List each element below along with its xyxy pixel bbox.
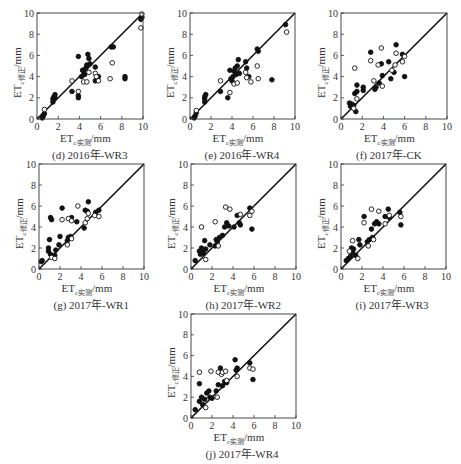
filled-data-point <box>193 258 198 263</box>
open-data-point <box>87 70 92 75</box>
open-data-point <box>213 219 218 224</box>
x-axis-label: ETc实测/mm <box>214 431 265 446</box>
open-data-point <box>351 106 356 111</box>
y-tick-label: 2 <box>333 92 338 103</box>
filled-data-point <box>202 397 207 402</box>
open-data-point <box>284 30 289 35</box>
panel-caption: (j) 2017年-WR4 <box>206 445 279 461</box>
open-data-point <box>85 80 90 85</box>
open-data-point <box>218 79 223 84</box>
y-tick-label: 2 <box>183 392 188 403</box>
y-axis-label: ETc修正/mm <box>165 198 180 249</box>
open-data-point <box>86 211 91 216</box>
filled-data-point <box>358 243 363 248</box>
open-data-point <box>399 214 404 219</box>
y-tick-label: 4 <box>333 71 338 82</box>
open-data-point <box>76 89 81 94</box>
open-data-point <box>110 61 115 66</box>
x-tick-label: 6 <box>402 271 407 282</box>
open-data-point <box>347 249 352 254</box>
x-tick-label: 2 <box>56 121 61 132</box>
panel-caption: (i) 2017年-WR3 <box>356 296 429 312</box>
x-tick-label: 2 <box>210 271 215 282</box>
filled-data-point <box>86 200 91 205</box>
open-data-point <box>244 75 249 80</box>
x-axis-label: ETc实测/mm <box>364 132 415 147</box>
x-tick-label: 4 <box>231 420 236 431</box>
filled-data-point <box>208 243 213 248</box>
open-data-point <box>362 221 367 226</box>
y-tick-label: 10 <box>178 159 188 170</box>
y-tick-label: 2 <box>182 92 187 103</box>
filled-data-point <box>203 92 208 97</box>
y-tick-label: 0 <box>183 264 188 275</box>
y-tick-label: 6 <box>333 50 338 61</box>
reference-line <box>191 314 296 418</box>
open-data-point <box>60 217 65 222</box>
y-axis-label: ETc修正/mm <box>13 198 28 249</box>
filled-data-point <box>97 208 102 213</box>
y-tick-label: 8 <box>333 29 338 40</box>
x-axis-label: ETc实测/mm <box>213 132 264 147</box>
open-data-point <box>243 70 248 75</box>
open-data-point <box>394 51 399 56</box>
filled-data-point <box>226 96 231 101</box>
y-tick-label: 6 <box>29 50 34 61</box>
x-tick-label: 0 <box>37 271 42 282</box>
x-tick-label: 6 <box>98 121 103 132</box>
x-tick-label: 6 <box>252 420 257 431</box>
filled-data-point <box>377 222 382 227</box>
filled-data-point <box>394 43 399 48</box>
filled-data-point <box>374 85 379 90</box>
filled-data-point <box>369 227 374 232</box>
y-tick-label: 0 <box>182 114 187 125</box>
filled-data-point <box>210 396 215 401</box>
x-tick-label: 10 <box>291 271 301 282</box>
x-tick-label: 4 <box>381 121 386 132</box>
open-data-point <box>366 244 371 249</box>
filled-data-point <box>207 389 212 394</box>
x-tick-label: 6 <box>402 121 407 132</box>
y-tick-label: 2 <box>333 243 338 254</box>
x-axis-label: ETc实测/mm <box>214 282 265 297</box>
open-data-point <box>228 90 233 95</box>
filled-data-point <box>202 238 207 243</box>
filled-data-point <box>123 76 128 81</box>
open-data-point <box>52 256 57 261</box>
y-tick-label: 10 <box>24 8 34 19</box>
filled-data-point <box>235 366 240 371</box>
x-tick-label: 4 <box>230 121 235 132</box>
filled-data-point <box>47 237 52 242</box>
open-data-point <box>203 405 208 410</box>
y-axis-label: ETc修正/mm <box>164 47 179 98</box>
filled-data-point <box>54 248 59 253</box>
filled-data-point <box>75 219 80 224</box>
y-tick-label: 10 <box>177 8 187 19</box>
x-axis-label: ETc实测/mm <box>60 132 111 147</box>
y-tick-label: 4 <box>29 71 34 82</box>
x-tick-label: 10 <box>139 271 149 282</box>
x-tick-label: 2 <box>58 271 63 282</box>
filled-data-point <box>58 234 63 239</box>
open-data-point <box>390 68 395 73</box>
open-data-point <box>209 369 214 374</box>
open-data-point <box>255 64 260 69</box>
filled-data-point <box>270 77 275 82</box>
x-tick-label: 0 <box>188 121 193 132</box>
y-axis-label: ETc修正/mm <box>165 347 180 398</box>
y-tick-label: 6 <box>183 201 188 212</box>
panel-caption: (g) 2017年-WR1 <box>54 296 129 312</box>
filled-data-point <box>237 71 242 76</box>
open-data-point <box>235 374 240 379</box>
open-data-point <box>249 80 254 85</box>
scatter-panel-g: 02468100246810ETc实测/mmETc修正/mm(g) 2017年-… <box>0 151 155 303</box>
x-tick-label: 8 <box>423 271 428 282</box>
x-tick-label: 8 <box>121 271 126 282</box>
x-tick-label: 8 <box>272 121 277 132</box>
y-tick-label: 2 <box>183 243 188 254</box>
open-data-point <box>224 378 229 383</box>
filled-data-point <box>368 50 373 55</box>
y-tick-label: 8 <box>31 180 36 191</box>
filled-data-point <box>57 243 62 248</box>
y-tick-label: 6 <box>31 201 36 212</box>
